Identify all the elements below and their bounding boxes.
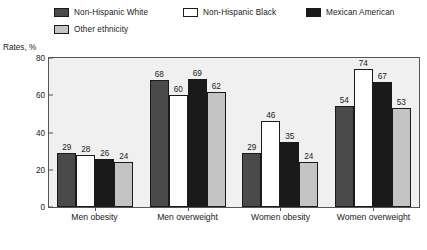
- bar-slot: 28: [76, 58, 95, 207]
- bar-slot: 62: [207, 58, 226, 207]
- x-axis-tick-mark: [95, 207, 96, 211]
- y-axis-title: Rates, %: [3, 43, 36, 52]
- bar-slot: 29: [242, 58, 261, 207]
- bar-group: 54746753: [327, 58, 420, 207]
- bar-group: 29463524: [234, 58, 327, 207]
- plot-inner: 020406080 292826246860696229463524547467…: [49, 58, 419, 207]
- bar[interactable]: 67: [373, 82, 392, 207]
- y-axis-tick-label: 80: [36, 54, 45, 63]
- bar[interactable]: 24: [114, 162, 133, 207]
- bar-value-label: 67: [378, 72, 387, 82]
- bar-slot: 26: [95, 58, 114, 207]
- bar[interactable]: 62: [207, 92, 226, 207]
- bar-slot: 54: [335, 58, 354, 207]
- legend-item-other-ethnicity[interactable]: Other ethnicity: [54, 23, 128, 36]
- bar[interactable]: 26: [95, 159, 114, 207]
- x-axis-label: Women overweight: [327, 212, 420, 232]
- legend-swatch-icon: [54, 8, 69, 17]
- x-axis-tick-mark: [188, 207, 189, 211]
- bar-slot: 67: [373, 58, 392, 207]
- bar-group: 68606962: [142, 58, 235, 207]
- y-axis-tick-label: 0: [40, 203, 45, 212]
- bar-slot: 29: [57, 58, 76, 207]
- bar[interactable]: 35: [280, 142, 299, 207]
- legend-item-non-hispanic-white[interactable]: Non-Hispanic White: [54, 6, 148, 19]
- bar-value-label: 29: [247, 143, 256, 153]
- plot-area: 020406080 292826246860696229463524547467…: [48, 57, 420, 208]
- bar[interactable]: 53: [392, 108, 411, 207]
- y-axis-tick-label: 20: [36, 165, 45, 174]
- bar-slot: 68: [150, 58, 169, 207]
- bar-chart: Non-Hispanic White Non-Hispanic Black Me…: [0, 0, 427, 250]
- bar[interactable]: 69: [188, 79, 207, 208]
- bar-value-label: 74: [359, 59, 368, 69]
- bar-value-label: 26: [100, 149, 109, 159]
- bar-value-label: 60: [174, 85, 183, 95]
- bar-slot: 24: [299, 58, 318, 207]
- bar[interactable]: 74: [354, 69, 373, 207]
- bar-slot: 46: [261, 58, 280, 207]
- legend-item-mexican-american[interactable]: Mexican American: [306, 6, 395, 19]
- legend-row-1: Non-Hispanic White Non-Hispanic Black Me…: [0, 6, 427, 19]
- x-axis-labels: Men obesityMen overweightWomen obesityWo…: [48, 212, 420, 232]
- bar-slot: 74: [354, 58, 373, 207]
- bar-groups: 29282624686069622946352454746753: [49, 58, 419, 207]
- legend-label: Non-Hispanic White: [74, 8, 148, 17]
- bar-value-label: 69: [193, 69, 202, 79]
- bar[interactable]: 54: [335, 106, 354, 207]
- chart-legend: Non-Hispanic White Non-Hispanic Black Me…: [0, 6, 427, 38]
- bar-value-label: 35: [285, 132, 294, 142]
- x-axis-label: Men obesity: [48, 212, 141, 232]
- x-axis-label: Women obesity: [234, 212, 327, 232]
- bar[interactable]: 28: [76, 155, 95, 207]
- x-axis-tick-mark: [373, 207, 374, 211]
- legend-swatch-icon: [183, 8, 198, 17]
- bar-value-label: 24: [304, 152, 313, 162]
- legend-swatch-icon: [54, 25, 69, 34]
- bar-value-label: 29: [62, 143, 71, 153]
- bar-group: 29282624: [49, 58, 142, 207]
- bar-slot: 35: [280, 58, 299, 207]
- bar-value-label: 53: [397, 98, 406, 108]
- y-axis-tick-label: 40: [36, 128, 45, 137]
- legend-label: Other ethnicity: [74, 25, 128, 34]
- y-axis-tick-label: 60: [36, 91, 45, 100]
- bar-value-label: 28: [81, 145, 90, 155]
- bar[interactable]: 60: [169, 95, 188, 207]
- x-axis-label: Men overweight: [141, 212, 234, 232]
- legend-swatch-icon: [306, 8, 321, 17]
- bar-slot: 24: [114, 58, 133, 207]
- bar[interactable]: 29: [242, 153, 261, 207]
- legend-label: Non-Hispanic Black: [203, 8, 276, 17]
- bar-slot: 60: [169, 58, 188, 207]
- bar[interactable]: 24: [299, 162, 318, 207]
- bar-value-label: 54: [340, 96, 349, 106]
- x-axis-tick-mark: [280, 207, 281, 211]
- bar-slot: 69: [188, 58, 207, 207]
- bar-value-label: 62: [212, 82, 221, 92]
- bar[interactable]: 46: [261, 121, 280, 207]
- bar[interactable]: 68: [150, 80, 169, 207]
- bar-slot: 53: [392, 58, 411, 207]
- bar-value-label: 46: [266, 111, 275, 121]
- legend-row-2: Other ethnicity: [0, 23, 427, 36]
- bar-value-label: 24: [119, 152, 128, 162]
- legend-label: Mexican American: [326, 8, 395, 17]
- bar[interactable]: 29: [57, 153, 76, 207]
- legend-item-non-hispanic-black[interactable]: Non-Hispanic Black: [183, 6, 276, 19]
- bar-value-label: 68: [155, 70, 164, 80]
